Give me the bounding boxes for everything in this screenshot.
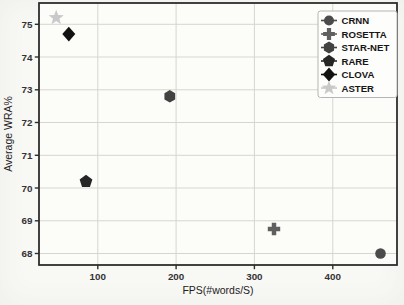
legend-label: RARE (342, 56, 370, 67)
legend-entry-clova: CLOVA (321, 67, 374, 81)
legend: CRNNROSETTASTAR-NETRARECLOVAASTER (318, 11, 397, 98)
x-tick-label: 400 (325, 271, 342, 282)
y-tick-label: 70 (22, 183, 33, 194)
legend-entry-rare: RARE (321, 55, 369, 67)
x-tick-label: 200 (168, 271, 185, 282)
scatter-chart: 6869707172737475100200300400Average WRA%… (0, 0, 404, 305)
legend-entry-crnn: CRNN (321, 15, 369, 26)
y-tick-label: 69 (22, 215, 33, 226)
y-tick-label: 73 (22, 84, 33, 95)
y-tick-label: 75 (22, 19, 33, 30)
scatter-plot-svg: 6869707172737475100200300400Average WRA%… (0, 0, 404, 305)
figure: 6869707172737475100200300400Average WRA%… (0, 0, 404, 305)
legend-label: ASTER (342, 83, 375, 94)
x-tick-label: 100 (90, 271, 107, 282)
y-axis-label: Average WRA% (2, 96, 14, 172)
x-axis-label: FPS(#words/S) (182, 284, 253, 296)
y-tick-label: 74 (22, 52, 33, 63)
legend-label: CLOVA (342, 69, 375, 80)
legend-label: ROSETTA (342, 29, 387, 40)
y-tick-label: 71 (22, 150, 33, 161)
crnn-marker (375, 248, 386, 259)
legend-label: STAR-NET (342, 42, 390, 53)
legend-label: CRNN (342, 15, 370, 26)
y-tick-label: 72 (22, 117, 33, 128)
legend-crnn-circle-icon (324, 15, 334, 25)
y-tick-label: 68 (22, 248, 33, 259)
legend-entry-star-net: STAR-NET (321, 42, 389, 54)
x-tick-label: 300 (246, 271, 263, 282)
legend-entry-rosetta: ROSETTA (321, 28, 387, 40)
